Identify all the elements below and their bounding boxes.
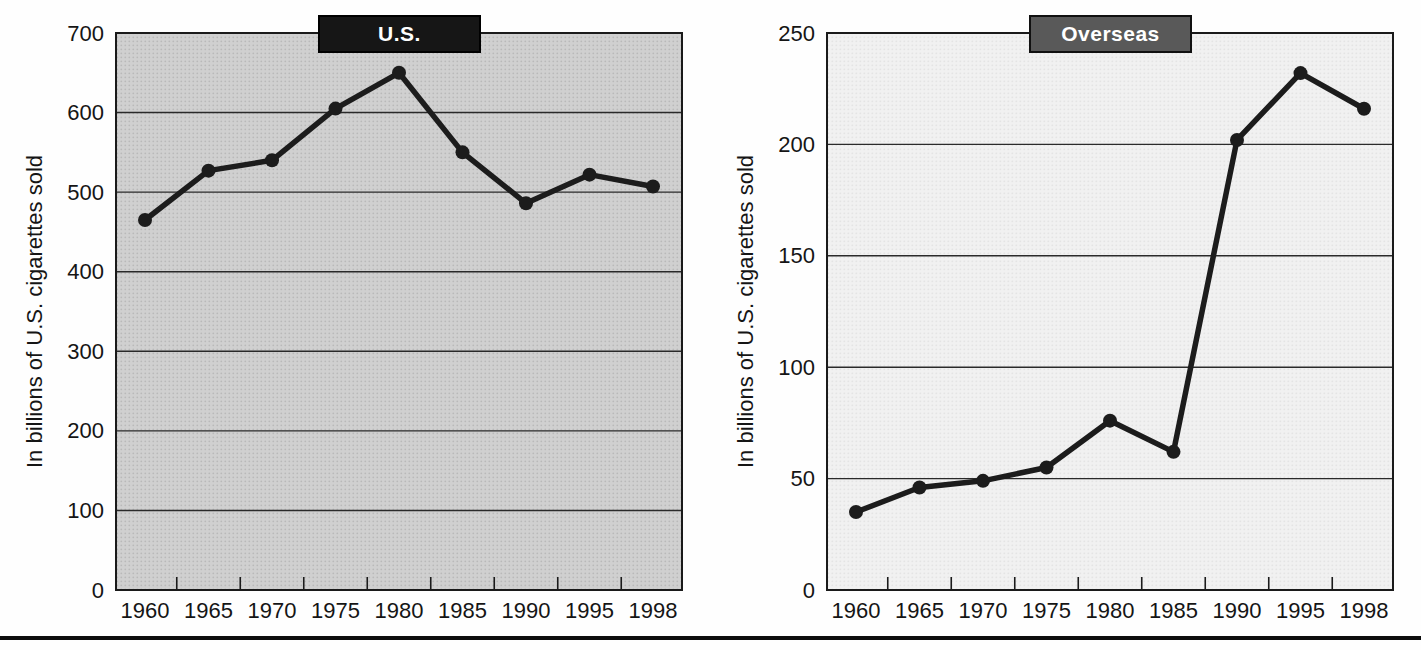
x-tick-label: 1980	[1086, 598, 1135, 623]
data-point-marker	[1294, 66, 1308, 80]
y-tick-label: 700	[67, 21, 104, 46]
y-tick-label: 300	[67, 339, 104, 364]
x-tick-label: 1970	[248, 598, 297, 623]
data-point-marker	[392, 66, 406, 80]
overseas-chart-canvas: 0501001502002501960196519701975198019851…	[711, 0, 1421, 650]
x-tick-label: 1980	[375, 598, 424, 623]
y-tick-label: 400	[67, 259, 104, 284]
y-tick-label: 200	[67, 418, 104, 443]
y-tick-label: 600	[67, 100, 104, 125]
y-tick-label: 100	[67, 498, 104, 523]
data-point-marker	[138, 213, 152, 227]
data-point-marker	[1357, 102, 1371, 116]
data-point-marker	[1040, 460, 1054, 474]
y-tick-label: 100	[778, 355, 815, 380]
x-tick-label: 1998	[629, 598, 678, 623]
x-tick-label: 1985	[1149, 598, 1198, 623]
x-tick-label: 1960	[832, 598, 881, 623]
data-point-marker	[202, 164, 216, 178]
data-point-marker	[583, 168, 597, 182]
x-tick-label: 1995	[1276, 598, 1325, 623]
data-point-marker	[849, 505, 863, 519]
data-point-marker	[519, 196, 533, 210]
data-point-marker	[1167, 445, 1181, 459]
plot-area	[116, 33, 682, 590]
x-tick-label: 1975	[1022, 598, 1071, 623]
data-point-marker	[1103, 414, 1117, 428]
page: U.S. 01002003004005006007001960196519701…	[0, 0, 1421, 650]
data-point-marker	[456, 145, 470, 159]
x-tick-label: 1985	[438, 598, 487, 623]
plot-area	[827, 33, 1393, 590]
y-axis-title: In billions of U.S. cigarettes sold	[22, 155, 47, 468]
x-tick-label: 1998	[1340, 598, 1389, 623]
x-tick-label: 1995	[565, 598, 614, 623]
data-point-marker	[646, 180, 660, 194]
x-tick-label: 1975	[311, 598, 360, 623]
overseas-chart-title-label: Overseas	[1061, 22, 1160, 46]
y-tick-label: 50	[791, 466, 815, 491]
y-axis-title: In billions of U.S. cigarettes sold	[733, 155, 758, 468]
data-point-marker	[265, 153, 279, 167]
data-point-marker	[1230, 133, 1244, 147]
us-chart-title: U.S.	[318, 15, 481, 53]
data-point-marker	[976, 474, 990, 488]
x-tick-label: 1965	[895, 598, 944, 623]
x-tick-label: 1960	[121, 598, 170, 623]
us-chart-title-label: U.S.	[378, 22, 421, 46]
y-tick-label: 0	[92, 578, 104, 603]
x-tick-label: 1990	[502, 598, 551, 623]
y-tick-label: 500	[67, 180, 104, 205]
y-tick-label: 200	[778, 132, 815, 157]
us-chart-canvas: 0100200300400500600700196019651970197519…	[0, 0, 710, 650]
x-tick-label: 1965	[184, 598, 233, 623]
y-tick-label: 250	[778, 21, 815, 46]
us-chart: U.S. 01002003004005006007001960196519701…	[0, 0, 710, 650]
x-tick-label: 1970	[959, 598, 1008, 623]
data-point-marker	[329, 102, 343, 116]
data-point-marker	[913, 481, 927, 495]
y-tick-label: 0	[803, 578, 815, 603]
x-tick-label: 1990	[1213, 598, 1262, 623]
overseas-chart-title: Overseas	[1029, 15, 1192, 53]
bottom-rule	[0, 636, 1421, 640]
overseas-chart: Overseas 0501001502002501960196519701975…	[711, 0, 1421, 650]
y-tick-label: 150	[778, 243, 815, 268]
